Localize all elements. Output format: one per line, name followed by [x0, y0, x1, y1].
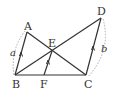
length-label-a: a: [10, 47, 16, 58]
point-label-F: F: [40, 78, 48, 91]
geometry-diagram: A B C D E F a b: [0, 0, 114, 92]
point-label-D: D: [97, 5, 106, 18]
segment-AC: [27, 32, 86, 75]
length-label-b: b: [101, 43, 107, 54]
point-label-A: A: [23, 20, 33, 33]
point-label-E: E: [48, 37, 56, 50]
point-label-C: C: [84, 78, 92, 91]
point-label-B: B: [12, 78, 20, 91]
